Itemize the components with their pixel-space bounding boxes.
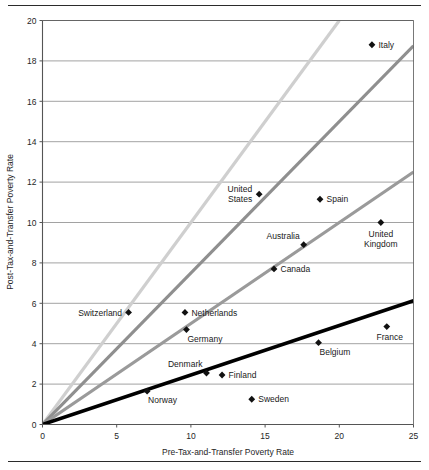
x-tick-label-0: 0 — [40, 431, 45, 441]
y-tick-label-10: 10 — [27, 218, 37, 228]
marker-spain — [317, 196, 324, 203]
point-label-denmark: Denmark — [168, 359, 203, 369]
marker-italy — [369, 41, 376, 48]
point-label-canada: Canada — [281, 264, 311, 274]
marker-sweden — [248, 396, 255, 403]
y-tick-label-2: 2 — [32, 379, 37, 389]
point-label-switzerland: Switzerland — [78, 308, 122, 318]
line-0-75 — [43, 46, 414, 425]
x-tick-label-5: 5 — [114, 431, 119, 441]
point-label-belgium: Belgium — [320, 347, 351, 357]
figure-container: 02468101214161820 0510152025 ItalyUnited… — [0, 0, 429, 470]
marker-united-kingdom — [377, 219, 384, 226]
marker-belgium — [315, 339, 322, 346]
line-0-50 — [43, 172, 414, 425]
x-axis-ticks: 0510152025 — [40, 425, 418, 441]
y-tick-label-12: 12 — [27, 177, 37, 187]
line-0-25 — [43, 301, 414, 425]
y-tick-label-4: 4 — [32, 339, 37, 349]
x-tick-label-15: 15 — [260, 431, 270, 441]
y-tick-label-16: 16 — [27, 97, 37, 107]
x-tick-label-20: 20 — [335, 431, 345, 441]
y-tick-label-6: 6 — [32, 299, 37, 309]
y-tick-label-8: 8 — [32, 258, 37, 268]
y-tick-label-20: 20 — [27, 16, 37, 26]
point-label-united-kingdom: UnitedKingdom — [364, 229, 398, 249]
marker-united-states — [256, 191, 263, 198]
point-label-australia: Australia — [267, 231, 300, 241]
x-tick-label-10: 10 — [186, 431, 196, 441]
point-label-spain: Spain — [327, 194, 349, 204]
y-axis-title: Post-Tax-and-Transfer Poverty Rate — [5, 154, 15, 290]
scatter-plot: 02468101214161820 0510152025 ItalyUnited… — [0, 0, 429, 470]
x-tick-label-25: 25 — [409, 431, 419, 441]
marker-france — [383, 323, 390, 330]
point-label-france: France — [377, 332, 404, 342]
y-tick-label-14: 14 — [27, 137, 37, 147]
point-label-finland: Finland — [229, 370, 257, 380]
y-axis-ticks: 02468101214161820 — [27, 16, 42, 430]
point-label-germany: Germany — [187, 334, 223, 344]
point-label-united-states: UnitedStates — [228, 184, 253, 204]
point-label-norway: Norway — [148, 395, 178, 405]
marker-netherlands — [182, 309, 189, 316]
point-label-netherlands: Netherlands — [191, 308, 237, 318]
y-tick-label-0: 0 — [32, 420, 37, 430]
data-points — [125, 41, 390, 402]
point-label-sweden: Sweden — [258, 394, 289, 404]
marker-finland — [219, 372, 226, 379]
x-axis-title: Pre-Tax-and-Transfer Poverty Rate — [162, 447, 294, 457]
point-label-italy: Italy — [378, 40, 394, 50]
y-tick-label-18: 18 — [27, 56, 37, 66]
